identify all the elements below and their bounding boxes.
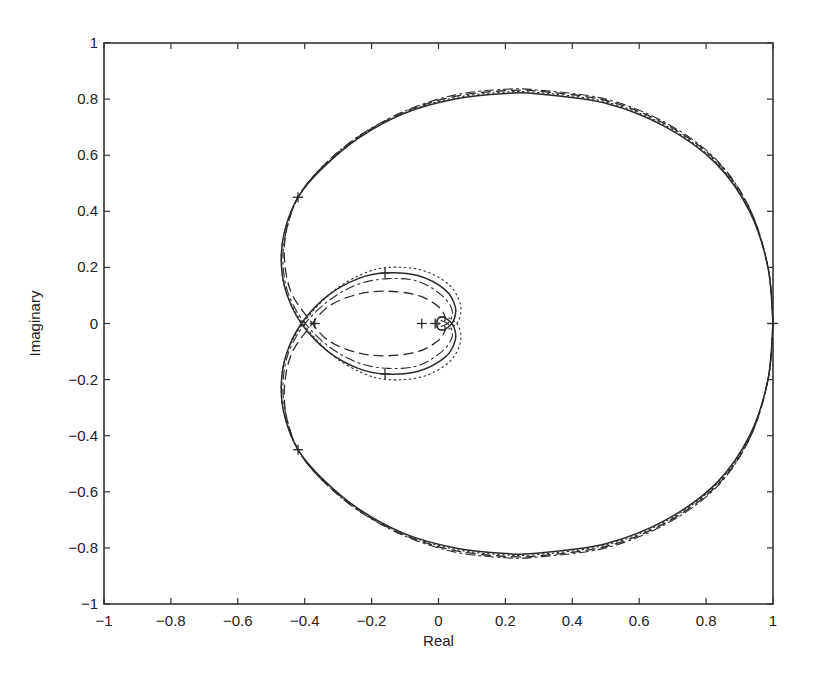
- y-tick-label: 0.8: [77, 90, 98, 107]
- x-tick-label: −0.2: [357, 612, 387, 629]
- y-tick-label: 0.6: [77, 146, 98, 163]
- plus-marker: [430, 319, 440, 329]
- y-tick-label: −0.4: [68, 427, 98, 444]
- x-axis-label: Real: [423, 632, 454, 649]
- x-tick-label: 0.6: [629, 612, 650, 629]
- y-tick-label: −0.2: [68, 371, 98, 388]
- x-tick-label: −0.4: [290, 612, 320, 629]
- x-tick-label: −1: [95, 612, 112, 629]
- curve-dashed-negative-freq: [284, 291, 773, 557]
- y-axis-label: Imaginary: [26, 290, 43, 356]
- curve-dashed-positive-freq: [284, 90, 773, 356]
- y-tick-label: −0.8: [68, 539, 98, 556]
- x-tick-label: 0.4: [562, 612, 583, 629]
- curve-dotted-positive-freq: [281, 91, 773, 379]
- x-tick-label: 1: [769, 612, 777, 629]
- x-tick-label: 0.2: [495, 612, 516, 629]
- plot-curves: [281, 89, 773, 558]
- plus-marker: [380, 268, 390, 278]
- x-tick-label: 0: [434, 612, 442, 629]
- plus-marker: [310, 319, 320, 329]
- x-tick-label: −0.8: [156, 612, 186, 629]
- plus-marker: [417, 319, 427, 329]
- curve-solid-positive-freq: [281, 93, 773, 374]
- curve-dash-dot-negative-freq: [283, 278, 773, 558]
- y-tick-label: −0.6: [68, 483, 98, 500]
- plus-marker: [293, 192, 303, 202]
- curve-dash-dot-positive-freq: [283, 89, 773, 369]
- y-tick-label: 0: [90, 315, 98, 332]
- x-axis-ticks: −1−0.8−0.6−0.4−0.200.20.40.60.81: [95, 43, 777, 629]
- plus-marker: [293, 445, 303, 455]
- y-tick-label: 0.2: [77, 258, 98, 275]
- x-tick-label: 0.8: [696, 612, 717, 629]
- y-tick-label: 1: [90, 34, 98, 51]
- y-tick-label: −1: [81, 595, 98, 612]
- x-tick-label: −0.6: [223, 612, 253, 629]
- plus-marker: [380, 369, 390, 379]
- y-tick-label: 0.4: [77, 202, 98, 219]
- nyquist-plot: −1−0.8−0.6−0.4−0.200.20.40.60.81 −1−0.8−…: [0, 0, 813, 677]
- curve-dotted-negative-freq: [281, 267, 773, 555]
- curve-solid-negative-freq: [281, 273, 773, 554]
- plot-markers: [293, 192, 778, 454]
